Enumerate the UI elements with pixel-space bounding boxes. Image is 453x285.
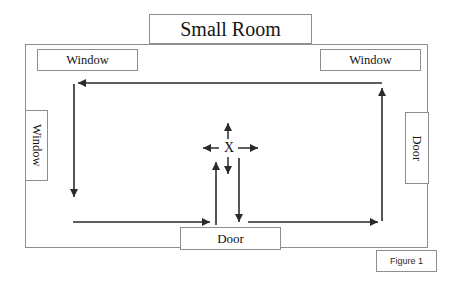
door-bottom-label: Door <box>180 227 281 250</box>
window-top-right-label: Window <box>320 49 421 71</box>
window-left-label-text: Window <box>30 124 43 167</box>
door-right-label: Door <box>405 112 429 184</box>
window-left-label: Window <box>25 110 48 181</box>
figure-title: Small Room <box>149 14 312 44</box>
window-top-left-label: Window <box>37 49 138 71</box>
door-right-label-text: Door <box>411 135 424 161</box>
center-position-marker: X <box>221 139 237 157</box>
figure-caption: Figure 1 <box>376 250 437 272</box>
